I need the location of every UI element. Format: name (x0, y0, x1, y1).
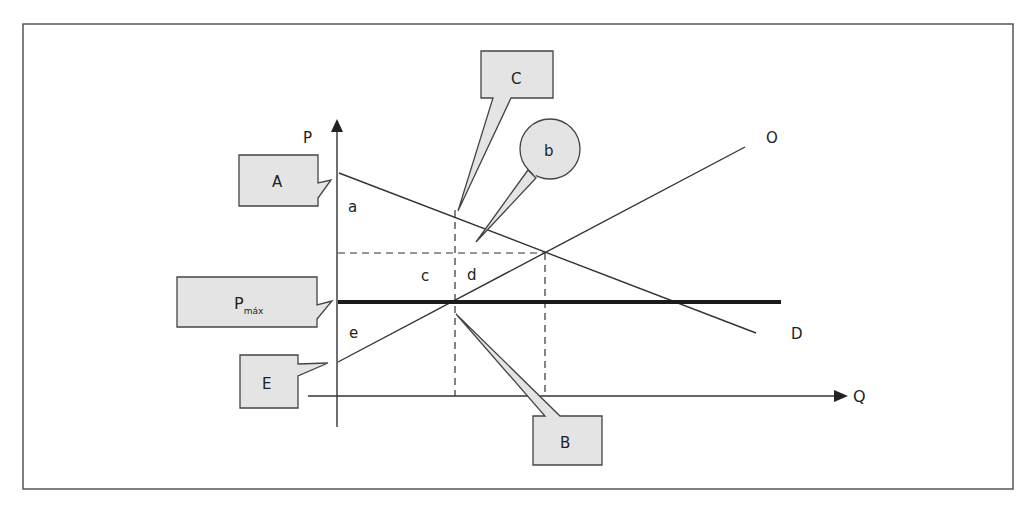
callout-pmax-shape (177, 277, 332, 327)
y-axis-label: P (303, 129, 312, 147)
area-label-e: e (349, 324, 358, 342)
area-label-c: c (421, 267, 429, 285)
callout-E: E (240, 355, 328, 408)
callout-pmax-subscript: máx (244, 306, 264, 316)
callout-pmax-main: P (234, 294, 244, 313)
callout-b-label: b (544, 142, 554, 160)
callout-pmax: Pmáx (177, 277, 332, 327)
callout-A-shape (239, 155, 331, 206)
demand-label: D (791, 325, 803, 343)
callout-B-label: B (560, 434, 570, 452)
price-ceiling-diagram: P Q O D a c d e A Pmáx E C b B (0, 0, 1036, 510)
callout-A: A (239, 155, 331, 206)
supply-curve (338, 147, 745, 362)
y-axis-arrowhead-icon (331, 119, 343, 132)
area-label-a: a (348, 198, 357, 216)
callout-b-tail (476, 170, 536, 242)
area-label-d: d (467, 266, 477, 284)
x-axis-arrowhead-icon (834, 390, 848, 402)
supply-label: O (766, 129, 778, 147)
callout-B-shape (456, 314, 602, 465)
callout-C-label: C (511, 70, 521, 88)
callout-B: B (456, 314, 602, 465)
callout-E-label: E (262, 375, 271, 393)
callout-A-label: A (272, 173, 283, 191)
callout-E-shape (240, 355, 328, 408)
axes (308, 130, 838, 427)
x-axis-label: Q (853, 387, 866, 406)
